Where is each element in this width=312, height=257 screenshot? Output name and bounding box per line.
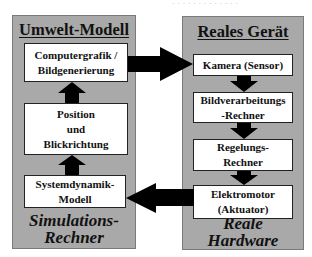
arrow-down-icon <box>229 123 259 139</box>
arrow-left-icon <box>126 183 194 213</box>
box-position-blickrichtung: Position und Blickrichtung <box>24 103 128 155</box>
box-bildverarbeitungs-rechner: Bildverarbeitungs -Rechner <box>193 92 293 123</box>
arrow-down-icon <box>229 171 259 185</box>
panel-title-umwelt-modell: Umwelt-Modell <box>13 21 135 39</box>
arrow-up-icon <box>57 82 87 103</box>
panel-footer-reale-hardware: Reale Hardware <box>183 215 303 249</box>
arrow-down-icon <box>229 76 259 92</box>
box-systemdynamik-modell: Systemdynamik- Modell <box>24 175 126 208</box>
panel-footer-simulations-rechner: Simulations- Rechner <box>13 212 135 246</box>
box-kamera-sensor: Kamera (Sensor) <box>193 54 293 76</box>
arrow-up-icon <box>57 155 87 175</box>
arrow-right-icon <box>128 47 194 81</box>
cropped-header-remnant: · · · · · · · · · · · · · <box>172 0 238 5</box>
box-computergrafik-bildgenerierung: Computergrafik / Bildgenerierung <box>24 43 128 82</box>
panel-title-reales-geraet: Reales Gerät <box>183 23 303 41</box>
box-elektromotor-aktuator: Elektromotor (Aktuator) <box>193 185 293 219</box>
box-regelungs-rechner: Regelungs- Rechner <box>193 139 293 171</box>
